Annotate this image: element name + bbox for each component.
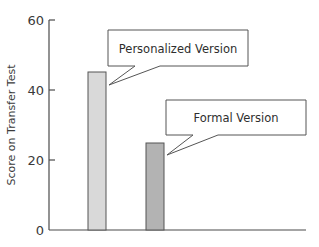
y-ticks — [49, 20, 55, 160]
tick-label-40: 40 — [27, 83, 44, 98]
callout-formal-text: Formal Version — [193, 111, 278, 125]
callout-formal: Formal Version — [166, 100, 306, 155]
tick-label-0: 0 — [36, 223, 44, 238]
tick-label-20: 20 — [27, 153, 44, 168]
bar-personalized — [88, 72, 106, 230]
bar-chart: 60 40 20 0 Score on Transfer Test Person… — [0, 0, 319, 247]
callout-personalized: Personalized Version — [108, 30, 248, 85]
bar-formal — [146, 143, 164, 230]
callout-personalized-text: Personalized Version — [119, 42, 237, 56]
y-axis-label: Score on Transfer Test — [5, 64, 18, 186]
tick-label-60: 60 — [27, 13, 44, 28]
